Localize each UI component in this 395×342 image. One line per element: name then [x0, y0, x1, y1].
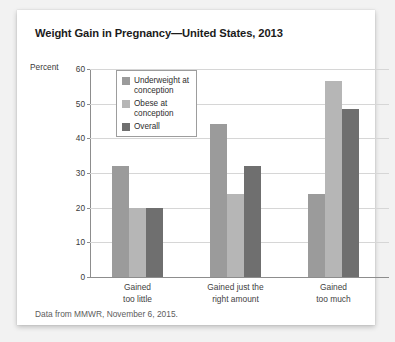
page-title: Weight Gain in Pregnancy—United States, …: [35, 27, 283, 39]
bar: [308, 194, 325, 277]
x-axis-category-label: Gained just the right amount: [191, 282, 281, 305]
y-axis-tick-label: 20: [76, 203, 85, 213]
bar: [244, 166, 261, 277]
y-axis-tick-label: 60: [76, 64, 85, 74]
legend-item-label: Underweight at conception: [134, 76, 191, 95]
chart-legend: Underweight at conceptionObese at concep…: [116, 70, 197, 137]
y-axis-tick-mark: [87, 277, 90, 278]
legend-item: Underweight at conception: [122, 76, 191, 95]
x-axis-line: [90, 277, 389, 278]
y-axis-tick-mark: [87, 104, 90, 105]
legend-swatch-icon: [122, 77, 130, 85]
y-axis-tick-label: 50: [76, 99, 85, 109]
source-note: Data from MMWR, November 6, 2015.: [35, 309, 178, 319]
legend-swatch-icon: [122, 123, 130, 131]
y-axis-tick-label: 30: [76, 168, 85, 178]
legend-item-label: Obese at conception: [134, 99, 191, 118]
bar: [325, 81, 342, 277]
y-axis-tick-mark: [87, 138, 90, 139]
y-axis-tick-mark: [87, 208, 90, 209]
bar: [129, 208, 146, 277]
legend-item: Obese at conception: [122, 99, 191, 118]
legend-item: Overall: [122, 122, 191, 132]
y-axis-tick-label: 40: [76, 133, 85, 143]
x-axis-category-label: Gained too much: [289, 282, 379, 305]
y-axis-tick-label: 10: [76, 237, 85, 247]
bar: [342, 109, 359, 277]
x-axis-category-label: Gained too little: [93, 282, 183, 305]
bar: [227, 194, 244, 277]
bar: [112, 166, 129, 277]
bar: [210, 124, 227, 277]
legend-item-label: Overall: [134, 122, 160, 132]
bar: [146, 208, 163, 277]
y-axis-tick-mark: [87, 173, 90, 174]
y-axis-title: Percent: [30, 62, 59, 72]
legend-swatch-icon: [122, 100, 130, 108]
y-axis-tick-mark: [87, 69, 90, 70]
y-axis-tick-mark: [87, 242, 90, 243]
y-axis-tick-label: 0: [80, 272, 85, 282]
chart-card: Weight Gain in Pregnancy—United States, …: [17, 10, 375, 325]
screenshot-root: Weight Gain in Pregnancy—United States, …: [0, 0, 395, 342]
